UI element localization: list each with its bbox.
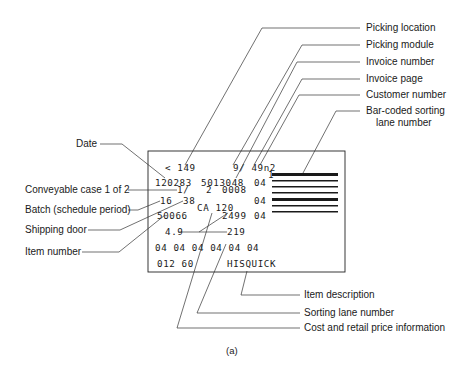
callout-barcoded-lane-line1: Bar-coded sorting [366, 105, 445, 116]
callout-barcoded-lane-line2: lane number [376, 117, 432, 128]
callout-customer-number: Customer number [366, 89, 447, 100]
callout-sorting-lane-number: Sorting lane number [304, 307, 395, 318]
callout-picking-module: Picking module [366, 39, 434, 50]
label-customer-number: 0008 [222, 184, 247, 195]
label-shipping-door-value: 38 [183, 195, 195, 206]
label-bottom-code: 012 60 [157, 258, 194, 269]
callout-invoice-number: Invoice number [366, 56, 435, 67]
barcode-strip-2 [272, 180, 338, 182]
label-row6-lane: 04 [254, 210, 266, 221]
label-batch-value: 16 [160, 195, 172, 206]
barcode-strip-7 [272, 211, 338, 213]
barcode-strip-5 [272, 198, 338, 201]
label-case-value: 1/ [177, 184, 189, 195]
barcode-strip-4 [272, 192, 338, 194]
label-retail-value: 219 [227, 226, 245, 237]
barcode-strip-3 [272, 186, 338, 188]
label-date-value: < 149 [165, 162, 196, 173]
callout-shipping-door: Shipping door [25, 224, 87, 235]
callout-date: Date [76, 138, 98, 149]
label-row4-lane: 04 [254, 195, 266, 206]
label-item-number: 50066 [157, 210, 188, 221]
label-item-description: HISQUICK [227, 258, 276, 269]
label-case-total: 2 [206, 184, 212, 195]
barcode-strip-1 [272, 173, 338, 176]
barcode-strip-6 [272, 205, 338, 207]
callout-conveyable-case: Conveyable case 1 of 2 [25, 184, 130, 195]
label-sorting-lanes: 04 04 04 04 04 04 [155, 242, 259, 253]
label-row2-lane: 04 [254, 177, 266, 188]
label-cost-value: 4.9 [165, 226, 183, 237]
callout-item-description: Item description [304, 289, 375, 300]
callout-batch: Batch (schedule period) [25, 204, 131, 215]
figure-caption: (a) [226, 345, 238, 356]
label-price-value: 2499 [222, 210, 247, 221]
callout-invoice-page: Invoice page [366, 73, 423, 84]
callout-cost-retail: Cost and retail price information [304, 322, 445, 333]
callout-picking-location: Picking location [366, 22, 435, 33]
callout-item-number: Item number [25, 246, 82, 257]
shipping-label-diagram: < 149 9/ 49n2 1 120283 5013048 04 1/ 2 0… [0, 0, 464, 374]
leader-item-description [241, 271, 300, 295]
